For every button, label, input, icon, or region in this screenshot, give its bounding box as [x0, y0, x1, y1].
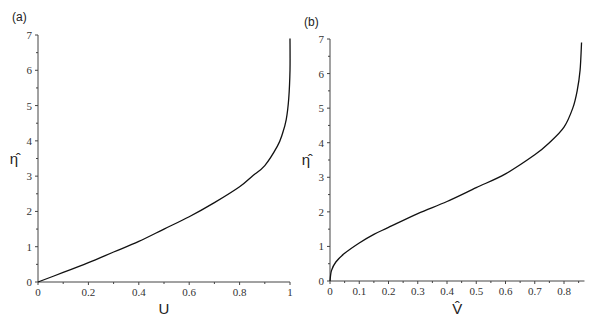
x-tick-label: 0.6	[499, 285, 513, 297]
y-tick-label: 7	[27, 29, 33, 41]
x-tick-label: 0.2	[82, 286, 96, 298]
y-tick-label: 2	[319, 206, 325, 218]
x-tick-label: 0.2	[382, 285, 396, 297]
x-tick-label: 0.4	[132, 286, 146, 298]
x-tick-label: 0.6	[182, 286, 196, 298]
y-tick-label: 5	[27, 100, 33, 112]
x-tick-label: 0	[327, 285, 333, 297]
x-tick-label: 0	[35, 286, 41, 298]
y-tick-label: 2	[27, 205, 33, 217]
y-tick-label: 0	[319, 275, 325, 287]
x-tick-label: 1	[287, 286, 293, 298]
y-tick-label: 1	[319, 240, 325, 252]
y-tick-label: 3	[27, 170, 33, 182]
y-tick-label: 5	[319, 102, 325, 114]
x-tick-label: 0.3	[411, 285, 425, 297]
y-tick-label: 3	[319, 171, 325, 183]
y-tick-label: 6	[27, 64, 33, 76]
x-tick-label: 0.4	[440, 285, 454, 297]
x-tick-label: 0.8	[557, 285, 571, 297]
x-axis-title: U	[159, 300, 170, 317]
y-tick-label: 0	[27, 276, 33, 288]
profile-curve	[330, 42, 582, 281]
y-tick-label: 1	[27, 241, 33, 253]
panel-label: (a)	[12, 10, 27, 24]
y-axis-title: η̂	[302, 151, 313, 168]
x-tick-label: 0.8	[233, 286, 247, 298]
panel-label: (b)	[304, 15, 319, 29]
panel-b: 0123456700.10.20.30.40.50.60.70.8(b)η̂V̂	[302, 15, 585, 317]
y-tick-label: 7	[319, 33, 325, 45]
panel-a: 0123456700.20.40.60.81(a)η̂U	[10, 10, 293, 317]
x-tick-label: 0.5	[469, 285, 483, 297]
profile-curve	[38, 39, 290, 282]
y-tick-label: 4	[319, 137, 325, 149]
x-tick-label: 0.1	[352, 285, 366, 297]
y-axis-title: η̂	[10, 150, 21, 167]
x-tick-label: 0.7	[528, 285, 542, 297]
chart-figure: 0123456700.20.40.60.81(a)η̂U0123456700.1…	[0, 0, 593, 329]
x-axis-title: V̂	[452, 300, 462, 317]
y-tick-label: 4	[27, 135, 33, 147]
y-tick-label: 6	[319, 68, 325, 80]
